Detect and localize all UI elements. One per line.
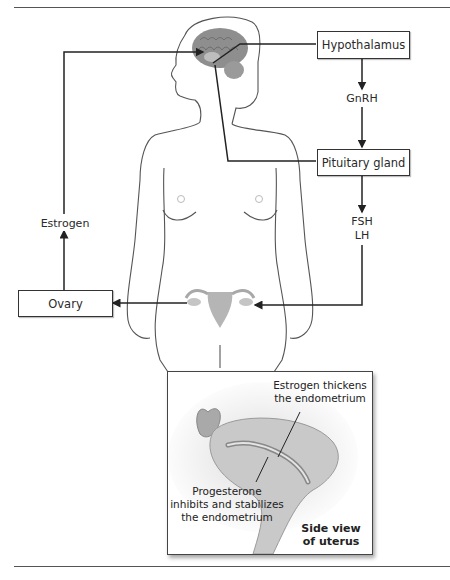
ovary-label: Ovary bbox=[48, 297, 82, 311]
estrogen-note: Estrogen thickens the endometrium bbox=[268, 379, 372, 405]
pituitary-connector bbox=[215, 65, 316, 161]
pituitary-box: Pituitary gland bbox=[317, 149, 410, 176]
torso-outline bbox=[127, 122, 312, 372]
pituitary-label: Pituitary gland bbox=[322, 156, 406, 170]
hypothalamus-label: Hypothalamus bbox=[322, 38, 405, 52]
gnrh-label: GnRH bbox=[342, 91, 382, 106]
nipple-left bbox=[178, 196, 185, 203]
fsh-label: FSH bbox=[347, 214, 377, 229]
ovary-box: Ovary bbox=[18, 290, 113, 317]
hypothalamus-box: Hypothalamus bbox=[317, 31, 410, 59]
estrogen-label: Estrogen bbox=[38, 216, 92, 231]
progesterone-note: Progesterone inhibits and stabilizes the… bbox=[168, 485, 286, 524]
brain-icon bbox=[192, 28, 248, 79]
uterus-icon bbox=[186, 291, 254, 328]
inset-caption: Side view of uterus bbox=[298, 522, 364, 548]
uterus-side-view-inset: Estrogen thickens the endometrium Proges… bbox=[167, 371, 373, 555]
nipple-right bbox=[256, 196, 263, 203]
lh-label: LH bbox=[347, 228, 377, 243]
